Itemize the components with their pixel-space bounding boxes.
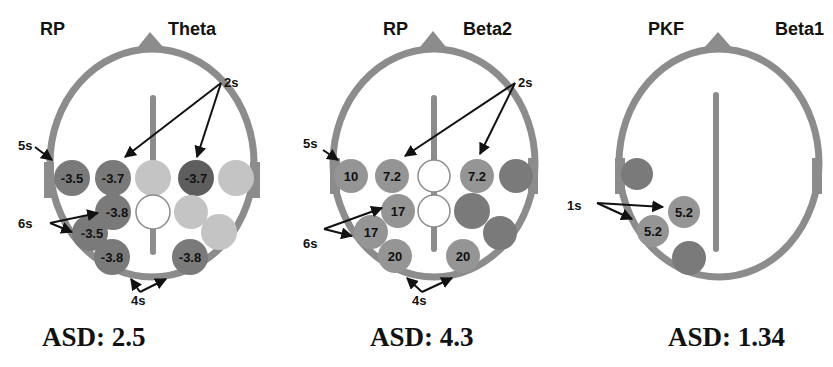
asd-label-beta1: ASD: 1.34: [668, 322, 785, 353]
electrodes: 10 7.2 7.2 17 17 20 20: [334, 159, 533, 273]
electrode-value: -3.8: [106, 205, 128, 220]
panel-beta1: PKF Beta1 5.2 5.2 1s: [567, 19, 824, 277]
annotation-6s: 6s: [18, 216, 32, 231]
electrode-value: 7.2: [468, 169, 486, 184]
left-ear-icon: [44, 162, 54, 198]
arrow-icon: [405, 83, 515, 156]
electrode-value: 20: [388, 249, 402, 264]
electrode-value: 17: [391, 204, 405, 219]
panel-title-left: RP: [383, 19, 408, 39]
electrode-value: -3.8: [101, 250, 123, 265]
annotation-5s: 5s: [18, 138, 32, 153]
right-ear-icon: [812, 158, 822, 194]
electrode-value: -3.8: [179, 250, 201, 265]
electrodes: -3.5 -3.7 -3.7 -3.8 -3.5 -3.8 -3.8: [54, 160, 254, 275]
electrode-value: -3.7: [185, 171, 207, 186]
panel-title-left: RP: [40, 19, 65, 39]
asd-label-theta: ASD: 2.5: [42, 322, 146, 353]
electrode-value: 20: [456, 249, 470, 264]
arrow-icon: [324, 229, 352, 236]
electrode-value: -3.5: [81, 226, 103, 241]
panel-title-left: PKF: [648, 19, 684, 39]
annotation-2s: 2s: [518, 75, 532, 90]
annotation-1s: 1s: [567, 198, 581, 213]
panel-beta2: RP Beta2 10 7.2 7.2 17 17 20: [303, 19, 538, 308]
arrow-icon: [140, 279, 166, 292]
asd-label-beta2: ASD: 4.3: [370, 322, 474, 353]
electrode-value: 10: [344, 169, 358, 184]
annotation-5s: 5s: [303, 136, 317, 151]
annotation-4s: 4s: [412, 293, 426, 308]
panel-title-right: Beta1: [775, 19, 824, 39]
electrode-value: -3.7: [102, 171, 124, 186]
annotation-4s: 4s: [131, 293, 145, 308]
electrode-value: -3.5: [61, 171, 83, 186]
panel-title-right: Beta2: [463, 19, 512, 39]
annotation-6s: 6s: [303, 236, 317, 251]
electrode-value: 17: [364, 225, 378, 240]
arrow-icon: [197, 83, 221, 157]
electrode-value: 5.2: [675, 205, 693, 220]
arrow-icon: [125, 83, 221, 157]
arrow-icon: [131, 279, 140, 292]
annotation-2s: 2s: [224, 75, 238, 90]
panel-theta: RP Theta -3.5 -3.7 -3.7 -3.8 -3.5: [18, 19, 260, 308]
panel-title-right: Theta: [168, 19, 217, 39]
midline: [713, 92, 719, 252]
electrode-value: 5.2: [644, 224, 662, 239]
electrode-value: 7.2: [383, 169, 401, 184]
arrow-icon: [407, 278, 422, 292]
